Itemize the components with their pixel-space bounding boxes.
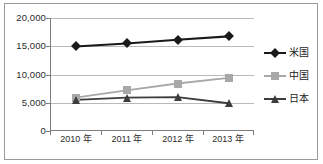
series-line-日本: [76, 97, 229, 103]
x-tick-label-2012: 2012 年: [155, 134, 201, 145]
legend-item-us: 米国: [264, 44, 309, 62]
plot-area: [50, 18, 254, 131]
x-axis-tick-labels: 2010 年 2011 年 2012 年 2013 年: [50, 134, 254, 148]
series-line-中国: [76, 78, 229, 98]
legend-swatch-diamond-icon: [264, 47, 286, 59]
legend-label-cn: 中国: [289, 70, 309, 82]
data-point-日本-2012年: [174, 93, 182, 101]
legend-label-us: 米国: [289, 47, 309, 59]
data-point-日本-2010年: [72, 96, 80, 104]
data-point-日本-2013年: [225, 99, 233, 107]
chart-legend: 米国 中国 日本: [264, 44, 318, 110]
x-tick-label-2010: 2010 年: [53, 134, 99, 145]
y-tick-label-10000: 10,000: [16, 70, 46, 80]
x-tick-label-2011: 2011 年: [104, 134, 150, 145]
data-point-日本-2011年: [123, 94, 131, 102]
legend-label-jp: 日本: [289, 93, 309, 105]
y-axis-tick-labels: 20,000 15,000 10,000 5,000 0: [0, 18, 46, 131]
y-tick-label-20000: 20,000: [16, 13, 46, 23]
legend-item-jp: 日本: [264, 90, 309, 108]
y-tick-label-15000: 15,000: [16, 41, 46, 51]
plot-inner: [50, 18, 254, 131]
legend-swatch-square-icon: [264, 70, 286, 82]
legend-swatch-triangle-icon: [264, 93, 286, 105]
legend-item-cn: 中国: [264, 67, 309, 85]
data-point-中国-2013年: [225, 74, 233, 82]
data-point-中国-2012年: [174, 80, 182, 88]
y-tick-label-5000: 5,000: [22, 98, 46, 108]
x-tick-label-2013: 2013 年: [205, 134, 251, 145]
series-line-米国: [76, 36, 229, 46]
chart-figure: 20,000 15,000 10,000 5,000 0: [0, 0, 323, 164]
